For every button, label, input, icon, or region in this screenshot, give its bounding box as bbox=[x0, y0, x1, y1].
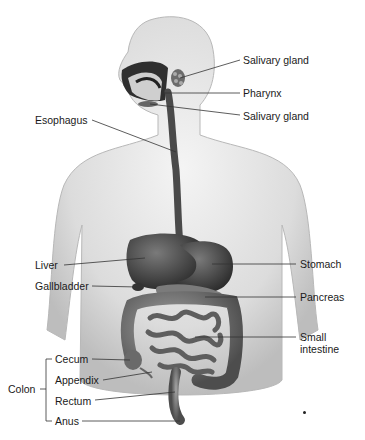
rectum-organ bbox=[173, 372, 180, 420]
stray-dot bbox=[303, 411, 306, 414]
label-colon: Colon bbox=[8, 383, 35, 395]
label-rectum: Rectum bbox=[55, 395, 91, 407]
salivary-gland-upper-organ bbox=[171, 69, 185, 87]
label-small-intestine-2: intestine bbox=[300, 343, 339, 355]
label-anus: Anus bbox=[55, 415, 79, 427]
label-salivary-gland-upper: Salivary gland bbox=[243, 54, 309, 66]
label-small-intestine-1: Small bbox=[300, 331, 326, 343]
label-stomach: Stomach bbox=[300, 258, 341, 270]
label-pancreas: Pancreas bbox=[300, 291, 344, 303]
label-gallbladder: Gallbladder bbox=[35, 280, 89, 292]
label-esophagus: Esophagus bbox=[35, 114, 88, 126]
label-cecum: Cecum bbox=[55, 353, 88, 365]
label-appendix: Appendix bbox=[55, 374, 99, 386]
label-liver: Liver bbox=[35, 259, 58, 271]
label-salivary-gland-lower: Salivary gland bbox=[243, 110, 309, 122]
label-pharynx: Pharynx bbox=[243, 87, 282, 99]
